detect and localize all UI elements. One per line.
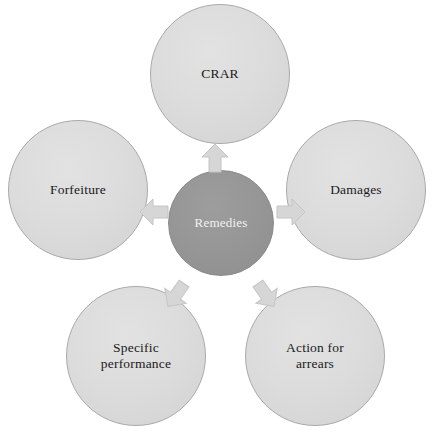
diagram-hub-remedies-label: Remedies (195, 215, 248, 230)
diagram-node-crar[interactable]: CRAR (150, 4, 290, 144)
diagram-hub-remedies[interactable]: Remedies (168, 170, 274, 276)
diagram-node-damages-label: Damages (330, 182, 382, 198)
diagram-node-crar-label: CRAR (201, 66, 239, 82)
diagram-node-forfeiture-label: Forfeiture (50, 182, 106, 198)
diagram-node-specific-performance-label: Specific performance (101, 340, 171, 372)
diagram-node-action-for-arrears[interactable]: Action for arrears (245, 286, 385, 426)
remedies-radial-diagram: CRAR Damages Action for arrears Specific… (0, 0, 440, 438)
diagram-node-forfeiture[interactable]: Forfeiture (8, 120, 148, 260)
diagram-node-damages[interactable]: Damages (286, 120, 426, 260)
diagram-node-specific-performance[interactable]: Specific performance (66, 286, 206, 426)
diagram-node-action-for-arrears-label: Action for arrears (286, 340, 344, 372)
block-arrow-icon-up (200, 142, 230, 174)
